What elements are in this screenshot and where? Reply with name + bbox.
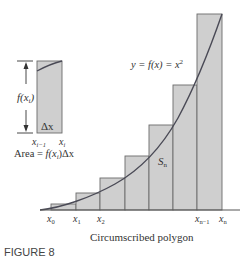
circumscribed-bars (51, 14, 222, 210)
figure-caption: Circumscribed polygon (90, 231, 194, 243)
inset-rectangle-illustration: f(xi) Δx xi−1 xi Area = f(xi)Δx (14, 61, 75, 161)
inset-right-x-label: xi (58, 136, 65, 148)
delta-x-label: Δx (41, 120, 54, 132)
xn-label: xn (218, 213, 227, 225)
bar-7 (197, 14, 222, 210)
bar-2 (76, 193, 100, 210)
xn-minus-1-label: xn−1 (194, 213, 210, 225)
bar-5 (149, 125, 173, 210)
area-formula: Area = f(xi)Δx (14, 148, 75, 161)
inset-left-x-label: xi−1 (31, 136, 46, 148)
curve-label: y = f(x) = x2 (130, 58, 184, 71)
arrow-up-icon (24, 62, 29, 69)
bar-3 (100, 178, 125, 210)
bar-4 (125, 156, 149, 210)
arrow-down-icon (24, 125, 29, 132)
x1-label: x1 (72, 213, 81, 225)
x2-label: x2 (96, 213, 105, 225)
circumscribed-polygon-figure: f(xi) Δx xi−1 xi Area = f(xi)Δx y = f(x)… (0, 0, 252, 259)
height-label: f(xi) (17, 91, 35, 105)
x0-label: x0 (46, 213, 55, 225)
figure-number: FIGURE 8 (4, 246, 55, 258)
